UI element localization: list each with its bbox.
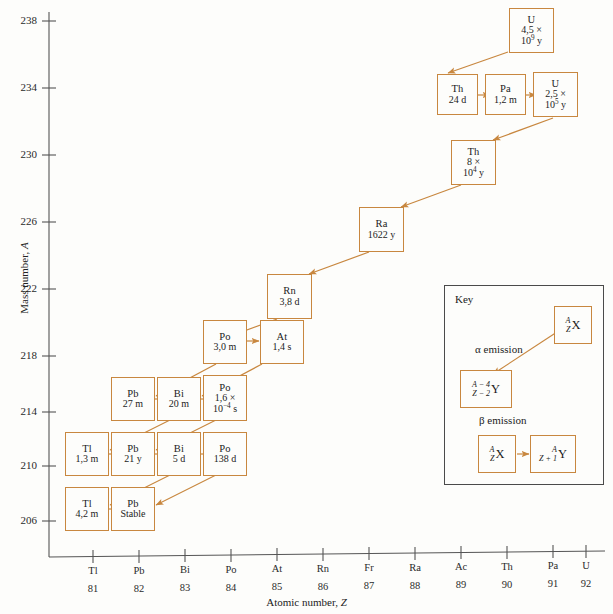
x-tick-symbol-at: At: [257, 563, 297, 574]
nuclide-halflife-line1: 24 d: [449, 95, 467, 106]
x-tick-symbol-po: Po: [211, 564, 251, 575]
nuclide-halflife-line1: 21 y: [124, 454, 142, 465]
x-tick-symbol-tl: Tl: [73, 565, 113, 576]
x-tick-number-83: 83: [165, 582, 205, 593]
x-tick-number-88: 88: [395, 580, 435, 591]
key-alpha-daughter-Z: Z − 2: [472, 389, 490, 398]
x-tick-number-85: 85: [257, 581, 297, 592]
y-tick-234: 234: [3, 81, 37, 93]
x-tick-number-81: 81: [73, 583, 113, 594]
key-alpha-daughter-isotope: A − 4 Z − 2 Y: [472, 380, 500, 399]
nuclide-box-bi214[interactable]: Bi 20 m: [157, 377, 201, 421]
decay-arrow-alpha: [401, 185, 461, 207]
y-tick-238: 238: [3, 14, 37, 26]
x-tick-symbol-pb: Pb: [119, 565, 159, 576]
key-alpha-daughter-A: A − 4: [472, 380, 490, 389]
x-tick-number-82: 82: [119, 583, 159, 594]
y-tick-206: 206: [3, 514, 37, 526]
key-beta-daughter-box[interactable]: A Z + 1 Y: [530, 435, 576, 473]
decay-arrow-alpha: [493, 118, 553, 140]
decay-arrow-alpha: [309, 252, 369, 274]
x-tick-symbol-th: Th: [487, 561, 527, 572]
nuclide-box-th234[interactable]: Th 24 d: [437, 74, 478, 115]
nuclide-box-tl206[interactable]: Tl 4,2 m: [65, 487, 109, 531]
nuclide-halflife-line1: 27 m: [123, 399, 143, 410]
y-axis-title: Mass number, A: [18, 198, 30, 358]
nuclide-halflife-line1: 1622 y: [368, 230, 396, 241]
y-tick-230: 230: [3, 148, 37, 160]
x-axis-title: Atomic number, Z: [0, 596, 613, 608]
nuclide-halflife-line1: 20 m: [169, 399, 189, 410]
y-tick-210: 210: [3, 459, 37, 471]
decay-series-figure: 238 234 230 226 222 218 214 210 206 Mass…: [0, 0, 613, 614]
nuclide-halflife-line1: 1,4 s: [273, 342, 292, 353]
decay-arrow-alpha: [448, 52, 508, 73]
key-beta-daughter-isotope: A Z + 1 Y: [539, 445, 567, 464]
nuclide-box-pb214[interactable]: Pb 27 m: [111, 377, 155, 421]
key-beta-parent-isotope: A Z X: [490, 445, 505, 464]
key-beta-parent-box[interactable]: A Z X: [478, 435, 516, 473]
key-alpha-parent-isotope: A Z X: [566, 316, 581, 335]
nuclide-halflife-line1: 138 d: [214, 454, 237, 465]
key-alpha-parent-A: A: [566, 316, 571, 325]
nuclide-halflife-line1: 1,3 m: [76, 454, 99, 465]
decay-arrow-alpha: [156, 475, 216, 505]
x-tick-number-90: 90: [487, 579, 527, 590]
nuclide-box-rn222[interactable]: Rn 3,8 d: [267, 274, 312, 319]
x-tick-symbol-bi: Bi: [165, 564, 205, 575]
key-alpha-parent-box[interactable]: A Z X: [554, 306, 592, 344]
y-tick-214: 214: [3, 405, 37, 417]
x-tick-number-86: 86: [303, 581, 343, 592]
nuclide-halflife-line1: Stable: [121, 509, 146, 520]
key-alpha-parent-Z: Z: [566, 325, 570, 334]
nuclide-box-th230[interactable]: Th 8 × 104 y: [451, 140, 496, 185]
key-beta-daughter-Z: Z + 1: [539, 454, 557, 463]
nuclide-halflife-line1: 3,8 d: [280, 297, 300, 308]
x-tick-symbol-ra: Ra: [395, 562, 435, 573]
key-alpha-daughter-box[interactable]: A − 4 Z − 2 Y: [460, 370, 512, 408]
x-tick-number-89: 89: [441, 579, 481, 590]
x-tick-symbol-u: U: [566, 560, 606, 571]
nuclide-halflife-line1: 5 d: [173, 454, 186, 465]
key-beta-parent-element: X: [495, 448, 504, 461]
nuclide-box-u238[interactable]: U 4,5 × 109 y: [509, 8, 554, 53]
key-beta-parent-A: A: [490, 445, 495, 454]
nuclide-halflife-line1: 3,0 m: [214, 342, 237, 353]
x-tick-number-87: 87: [349, 580, 389, 591]
key-beta-parent-Z: Z: [490, 454, 494, 463]
x-tick-number-92: 92: [566, 578, 606, 589]
x-tick-number-84: 84: [211, 582, 251, 593]
nuclide-box-pb206[interactable]: Pb Stable: [111, 487, 155, 531]
nuclide-halflife-line2: 10−4 s: [213, 404, 237, 415]
nuclide-halflife-line1: 4,2 m: [76, 509, 99, 520]
nuclide-halflife-line2: 109 y: [521, 36, 542, 47]
nuclide-box-pb210[interactable]: Pb 21 y: [111, 432, 155, 476]
key-alpha-parent-element: X: [571, 319, 580, 332]
nuclide-box-ra226[interactable]: Ra 1622 y: [359, 207, 404, 252]
nuclide-box-po218[interactable]: Po 3,0 m: [203, 320, 247, 364]
nuclide-halflife-line2: 105 y: [545, 100, 566, 111]
x-tick-symbol-rn: Rn: [303, 563, 343, 574]
key-beta-daughter-element: Y: [558, 448, 567, 461]
nuclide-halflife-line1: 1,2 m: [494, 95, 517, 106]
x-tick-symbol-ac: Ac: [441, 561, 481, 572]
nuclide-box-u234[interactable]: U 2,5 × 105 y: [533, 72, 578, 117]
x-tick-symbol-fr: Fr: [349, 562, 389, 573]
key-beta-daughter-A: A: [552, 445, 557, 454]
nuclide-box-at218[interactable]: At 1,4 s: [260, 320, 304, 364]
nuclide-box-tl210[interactable]: Tl 1,3 m: [65, 432, 109, 476]
nuclide-box-po214[interactable]: Po 1,6 × 10−4 s: [203, 375, 247, 421]
key-legend: Key α emission β emission A Z X A − 4 Z …: [444, 285, 604, 485]
nuclide-box-po210[interactable]: Po 138 d: [203, 432, 247, 476]
key-alpha-daughter-element: Y: [491, 383, 500, 396]
key-alpha-arrow: [493, 332, 557, 374]
nuclide-box-pa234[interactable]: Pa 1,2 m: [485, 74, 526, 115]
nuclide-box-bi210[interactable]: Bi 5 d: [157, 432, 201, 476]
nuclide-halflife-line2: 104 y: [463, 168, 484, 179]
